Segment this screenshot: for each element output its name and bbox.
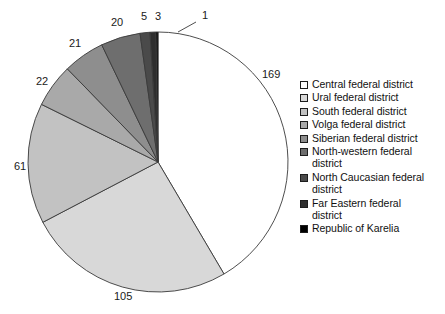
legend-swatch-icon [300,200,308,208]
pie-value-label: 20 [111,16,123,28]
pie-value-label: 169 [262,68,280,80]
legend-swatch-icon [300,121,308,129]
legend-swatch-icon [300,148,308,156]
legend-item[interactable]: Siberian federal district [300,132,442,144]
pie-value-label: 5 [141,10,147,22]
pie-value-label: 105 [114,290,132,302]
pie-value-label: 22 [36,75,48,87]
pie-value-label: 3 [155,10,161,22]
legend-swatch-icon [300,108,308,116]
leader-lines-group [178,22,196,32]
legend-swatch-icon [300,135,308,143]
leader-line [178,22,196,32]
legend-swatch-icon [300,174,308,182]
legend-item-label: Siberian federal district [312,132,418,144]
legend-item[interactable]: Republic of Karelia [300,222,442,234]
legend-item-label: Ural federal district [312,91,398,103]
pie-chart-figure: 16910561222120531 Central federal distri… [0,0,445,314]
legend-item[interactable]: Central federal district [300,78,442,90]
legend-item[interactable]: South federal district [300,105,442,117]
pie-value-label: 61 [14,160,26,172]
legend-item[interactable]: North-western federal district [300,145,442,170]
pie-value-label: 21 [69,37,81,49]
legend-item[interactable]: Ural federal district [300,91,442,103]
legend-item-label: Volga federal district [312,118,405,130]
legend-item-label: North-western federal district [312,145,412,170]
legend-swatch-icon [300,81,308,89]
pie-slices-group [28,32,288,292]
legend-item-label: North Caucasian federal district [312,171,424,196]
legend-item-label: South federal district [312,105,407,117]
legend-item[interactable]: Far Eastern federal district [300,197,442,222]
pie-value-label: 1 [202,9,208,21]
legend-item-label: Republic of Karelia [312,222,399,234]
legend-swatch-icon [300,225,308,233]
legend-item[interactable]: Volga federal district [300,118,442,130]
legend-item-label: Far Eastern federal district [312,197,401,222]
legend-item-label: Central federal district [312,78,413,90]
legend-item[interactable]: North Caucasian federal district [300,171,442,196]
legend-swatch-icon [300,94,308,102]
chart-legend: Central federal districtUral federal dis… [300,78,442,236]
